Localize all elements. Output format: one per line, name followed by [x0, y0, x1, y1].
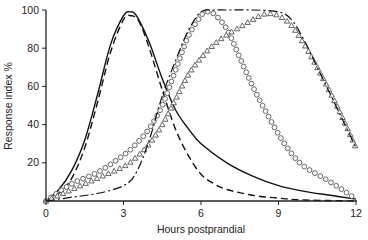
circle-marker: [229, 36, 234, 41]
circle-marker: [69, 181, 74, 186]
circle-marker: [123, 151, 128, 156]
triangle-marker: [163, 117, 168, 122]
circle-marker: [171, 73, 176, 78]
triangle-marker: [153, 132, 158, 137]
circle-marker: [285, 146, 290, 151]
circle-marker: [344, 190, 349, 195]
circle-marker: [132, 143, 137, 148]
triangle-marker: [219, 36, 224, 41]
x-tick-label: 3: [121, 207, 127, 219]
circle-marker: [278, 136, 283, 141]
x-tick-label: 0: [43, 207, 49, 219]
circle-marker: [339, 187, 344, 192]
series-circles: [44, 9, 354, 203]
triangle-marker: [168, 105, 173, 110]
triangle-marker: [185, 72, 190, 77]
circle-marker: [234, 47, 239, 52]
circle-marker: [323, 177, 328, 182]
x-axis-label: Hours postprandial: [157, 223, 245, 235]
circle-marker: [252, 87, 257, 92]
triangle-marker: [299, 38, 304, 43]
circle-marker: [289, 151, 294, 156]
triangle-marker: [174, 94, 179, 99]
triangle-marker: [234, 26, 239, 31]
circle-marker: [163, 97, 168, 102]
circle-marker: [216, 15, 221, 20]
triangle-marker: [149, 137, 154, 142]
circle-marker: [293, 156, 298, 161]
circle-marker: [180, 50, 185, 55]
triangle-marker: [77, 183, 82, 188]
circle-marker: [108, 162, 113, 167]
circle-marker: [160, 102, 165, 107]
circle-marker: [231, 41, 236, 46]
x-tick-label: 9: [276, 207, 282, 219]
circle-marker: [165, 91, 170, 96]
circle-marker: [297, 160, 302, 165]
circle-marker: [148, 124, 153, 129]
triangle-marker: [160, 122, 165, 127]
circle-marker: [313, 171, 318, 176]
axes: 036912 20406080100: [21, 4, 362, 220]
circle-marker: [254, 92, 259, 97]
circle-marker: [263, 109, 268, 114]
circle-marker: [220, 20, 225, 25]
response-index-chart: 036912 20406080100 Hours postprandial Re…: [0, 0, 368, 240]
circle-marker: [302, 164, 307, 169]
circle-marker: [260, 103, 265, 108]
triangle-marker: [284, 18, 289, 23]
circle-marker: [98, 169, 103, 174]
triangle-marker: [117, 166, 122, 171]
triangle-marker: [261, 11, 266, 16]
circle-marker: [169, 79, 174, 84]
circle-marker: [318, 174, 323, 179]
y-axis-label: Response index %: [2, 62, 14, 150]
y-tick-label: 40: [27, 118, 39, 130]
triangle-marker: [256, 14, 261, 19]
circle-marker: [244, 70, 249, 75]
circle-marker: [145, 129, 150, 134]
circle-marker: [92, 172, 97, 177]
triangle-marker: [177, 89, 182, 94]
circle-marker: [349, 194, 354, 199]
triangle-marker: [146, 142, 151, 147]
triangle-marker: [250, 17, 255, 22]
circle-marker: [173, 67, 178, 72]
circle-marker: [137, 138, 142, 143]
circle-marker: [177, 56, 182, 61]
circle-marker: [175, 62, 180, 67]
circle-marker: [223, 25, 228, 30]
circle-marker: [239, 59, 244, 64]
circle-marker: [334, 183, 339, 188]
x-tick-label: 6: [198, 207, 204, 219]
circle-marker: [113, 158, 118, 163]
triangle-marker: [240, 23, 245, 28]
circle-marker: [196, 17, 201, 22]
triangle-marker: [192, 62, 197, 67]
x-tick-label: 12: [350, 207, 362, 219]
triangle-marker: [245, 20, 250, 25]
triangle-marker: [182, 78, 187, 83]
triangle-marker: [100, 173, 105, 178]
circle-marker: [246, 76, 251, 81]
triangle-marker: [111, 168, 116, 173]
circle-marker: [272, 125, 277, 130]
circle-marker: [141, 134, 146, 139]
triangle-marker: [268, 11, 273, 16]
triangle-marker: [123, 163, 128, 168]
circle-marker: [75, 179, 80, 184]
circle-marker: [236, 53, 241, 58]
circle-marker: [257, 98, 262, 103]
triangle-marker: [196, 57, 201, 62]
circle-marker: [81, 176, 86, 181]
circle-marker: [329, 180, 334, 185]
triangle-marker: [279, 15, 284, 20]
chart-svg: 036912 20406080100 Hours postprandial Re…: [0, 0, 368, 240]
circle-marker: [282, 141, 287, 146]
circle-marker: [167, 85, 172, 90]
y-tick-label: 80: [27, 42, 39, 54]
triangle-marker: [106, 171, 111, 176]
triangle-marker: [189, 67, 194, 72]
circle-marker: [103, 165, 108, 170]
circle-marker: [200, 12, 205, 17]
